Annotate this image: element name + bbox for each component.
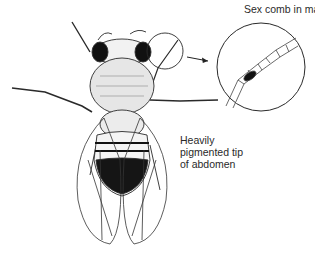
arrow-icon bbox=[187, 57, 208, 63]
abdomen-label-line-2: pigmented tip bbox=[180, 146, 243, 158]
abdomen-label-line-3: of abdomen bbox=[180, 158, 243, 170]
abdomen-label-line-1: Heavily bbox=[180, 134, 243, 146]
abdomen-tip-label: Heavily pigmented tip of abdomen bbox=[180, 134, 243, 170]
sex-comb bbox=[242, 69, 257, 83]
fly-diagram: Sex comb in male Heavily pigmented tip o… bbox=[0, 0, 315, 256]
foreleg-highlight-circle bbox=[147, 33, 183, 69]
magnified-foreleg bbox=[226, 38, 298, 108]
sex-comb-label: Sex comb in male bbox=[244, 3, 315, 15]
fly-illustration bbox=[0, 0, 315, 256]
pigmented-abdomen-tip bbox=[96, 158, 148, 194]
left-eye bbox=[92, 42, 108, 62]
